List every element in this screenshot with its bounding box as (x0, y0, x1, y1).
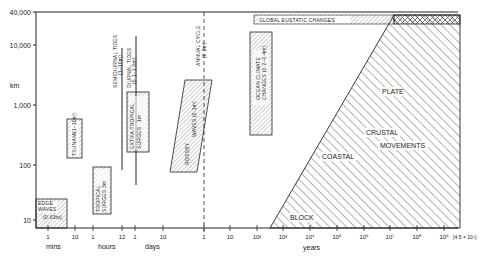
x-tick-label: 10³ (279, 234, 288, 240)
diurnal-tides-amp: (0·1–1·0m) (131, 57, 137, 84)
x-unit-hours: hours (98, 243, 116, 250)
semidiurnal-tides-amp: (1–10m) (117, 55, 123, 75)
ocean-climate-changes: OCEAN CLIMATE CHANGES (0·2–0·4m) (250, 32, 272, 135)
svg-text:(1–10m): (1–10m) (71, 113, 77, 133)
y-tick-label: 1,000 (13, 102, 31, 109)
coastal-label: COASTAL (322, 153, 354, 160)
x-tick-label: 1 (133, 234, 137, 240)
svg-text:(0·03m): (0·03m) (43, 214, 62, 220)
x-tick-label: 10⁵ (332, 234, 342, 240)
y-tick-label: 10,000 (10, 42, 32, 49)
spectrum-diagram: 40,000 10,000 1,000 100 10 km 1101121101… (0, 0, 496, 262)
x-tick-label: 10² (253, 234, 262, 240)
svg-text:SURGES: SURGES (136, 126, 142, 149)
svg-text:TSUNAMI: TSUNAMI (71, 132, 77, 156)
crustal-movements: PLATE CRUSTAL MOVEMENTS COASTAL BLOCK (270, 15, 460, 228)
extra-tropical-surges: EXTRA-TROPICAL SURGES 1m (127, 92, 149, 152)
movements-label: MOVEMENTS (380, 142, 425, 149)
x-tick-label: 10 (227, 234, 234, 240)
rossby-waves: ROSSBY WAVES (0·1m) (170, 80, 212, 172)
x-axis-end-label: [4·5 × 10⁹] (453, 234, 477, 240)
x-tick-label: 1 (91, 234, 95, 240)
svg-text:GLOBAL EUSTATIC CHANGES: GLOBAL EUSTATIC CHANGES (259, 17, 335, 23)
svg-text:SURGES: SURGES (101, 189, 107, 212)
svg-text:CHANGES (0·2–0·4m): CHANGES (0·2–0·4m) (261, 45, 267, 100)
y-tick-label: 100 (19, 162, 31, 169)
plate-label: PLATE (382, 88, 404, 95)
svg-text:ROSSBY: ROSSBY (184, 142, 190, 165)
svg-text:WAVES: WAVES (191, 118, 197, 137)
x-tick-label: 10 (72, 234, 79, 240)
svg-text:(0·1m): (0·1m) (191, 101, 197, 117)
x-unit-years: years (303, 244, 321, 252)
x-unit-mins: mins (46, 243, 61, 250)
edge-waves: EDGE WAVES (0·03m) (36, 199, 67, 228)
x-tick-label: 10⁴ (305, 234, 315, 240)
svg-text:1m: 1m (136, 115, 142, 122)
x-tick-label: 10⁹ (439, 234, 449, 240)
svg-text:EXTRA-TROPICAL: EXTRA-TROPICAL (129, 103, 135, 149)
x-unit-days: days (145, 243, 160, 251)
y-tick-label: 10 (23, 217, 31, 224)
x-tick-label: 1 (46, 234, 50, 240)
x-tick-label: 10⁶ (359, 234, 369, 240)
svg-text:3m: 3m (101, 181, 107, 188)
x-tick-label: 12 (119, 234, 126, 240)
y-tick-label: 40,000 (10, 9, 32, 16)
crustal-label: CRUSTAL (366, 129, 398, 136)
y-ticks: 40,000 10,000 1,000 100 10 km (10, 9, 36, 224)
x-tick-label: 10⁸ (412, 234, 422, 240)
x-tick-label: 10⁷ (386, 234, 395, 240)
annual-cycle-amp: (0·2m) (201, 42, 207, 58)
x-tick-label: 10 (160, 234, 167, 240)
tsunami: TSUNAMI (1–10m) (67, 113, 82, 158)
block-label: BLOCK (290, 214, 314, 221)
global-eustatic-changes: GLOBAL EUSTATIC CHANGES (254, 15, 394, 24)
x-tick-label: 1 (202, 234, 206, 240)
svg-text:WAVES: WAVES (38, 206, 57, 212)
tropical-surges: TROPICAL SURGES 3m (93, 167, 111, 214)
y-axis-unit: km (10, 82, 20, 89)
